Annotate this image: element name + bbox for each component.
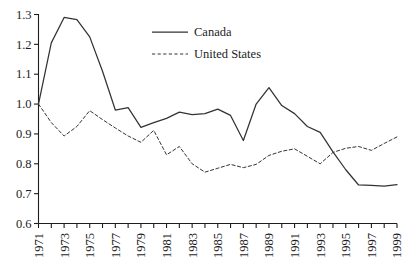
x-axis-tick-label: 1983 bbox=[186, 233, 200, 258]
y-axis-tick-label: 0.8 bbox=[16, 157, 32, 171]
x-axis-tick-label: 1973 bbox=[58, 233, 72, 258]
x-axis-tick-label: 1997 bbox=[365, 233, 379, 258]
x-axis-tick-label: 1987 bbox=[237, 233, 251, 258]
x-axis-tick-label: 1985 bbox=[211, 233, 225, 258]
x-axis-tick-label: 1991 bbox=[288, 233, 302, 258]
chart-figure: 0.60.70.80.91.01.11.21.3 197119731975197… bbox=[0, 0, 405, 266]
x-axis-tick-label: 1977 bbox=[109, 233, 123, 258]
x-axis-tick-label: 1989 bbox=[262, 233, 276, 258]
y-axis-tick-label: 1.0 bbox=[16, 97, 32, 111]
x-axis-tick-label: 1971 bbox=[32, 233, 46, 258]
y-axis-tick-label: 0.9 bbox=[16, 127, 32, 141]
y-axis-tick-label: 1.3 bbox=[16, 8, 32, 22]
line-chart: 0.60.70.80.91.01.11.21.3 197119731975197… bbox=[0, 0, 405, 266]
x-axis-tick-label: 1999 bbox=[390, 233, 404, 258]
legend-label-canada: Canada bbox=[194, 25, 232, 39]
y-axis-tick-label: 0.6 bbox=[16, 217, 32, 231]
y-axis-tick-label: 1.2 bbox=[16, 38, 32, 52]
figure-caption bbox=[4, 257, 204, 266]
x-axis-tick-label: 1975 bbox=[83, 233, 97, 258]
x-axis-tick-label: 1979 bbox=[134, 233, 148, 258]
x-axis-tick-label: 1993 bbox=[314, 233, 328, 258]
x-axis-tick-label: 1995 bbox=[339, 233, 353, 258]
legend-label-united-states: United States bbox=[194, 47, 261, 61]
x-axis-tick-label: 1981 bbox=[160, 233, 174, 258]
y-axis-tick-label: 0.7 bbox=[16, 187, 32, 201]
y-axis-tick-label: 1.1 bbox=[16, 67, 32, 81]
